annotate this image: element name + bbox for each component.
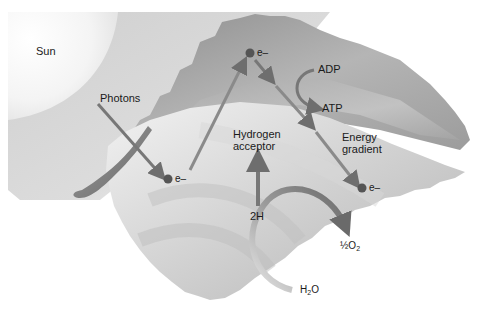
energy-gradient-label: Energy gradient [342,131,382,155]
hydrogen-acceptor-line1: Hydrogen [233,128,281,140]
h2o-label: H2O [300,284,319,299]
half-o2-label: ½O2 [340,240,360,255]
electron-high [246,49,255,58]
half-o2-text: ½O [340,240,356,251]
adp-label: ADP [318,63,341,75]
electron-low-label: e– [175,173,186,185]
electron-end-label: e– [369,182,380,194]
diagram-artwork [0,0,482,313]
hydrogen-acceptor-line2: acceptor [233,140,281,152]
half-o2-subscript: 2 [356,245,360,252]
electron-high-label: e– [257,47,268,59]
photosynthesis-diagram: Sun Photons e– e– e– ADP ATP Hydrogen ac… [0,0,482,313]
hydrogen-acceptor-label: Hydrogen acceptor [233,128,281,152]
energy-gradient-line2: gradient [342,143,382,155]
electron-low [164,175,173,184]
two-h-label: 2H [250,210,264,222]
energy-gradient-line1: Energy [342,131,382,143]
h2o-o: O [311,284,319,295]
sun-label: Sun [36,45,56,57]
electron-end [358,184,367,193]
photons-label: Photons [100,92,140,104]
atp-label: ATP [322,102,343,114]
